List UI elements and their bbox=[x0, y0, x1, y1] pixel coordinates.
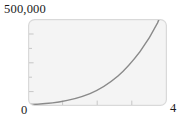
y-axis-max-label: 500,000 bbox=[4, 3, 46, 16]
x-axis-origin-label: 0 bbox=[21, 104, 27, 117]
x-axis-max-label: 4 bbox=[170, 102, 176, 115]
plot-svg bbox=[28, 19, 167, 106]
plot-area bbox=[28, 19, 167, 106]
chart-screenshot: 500,000 bbox=[0, 0, 184, 124]
plot-frame-rect bbox=[29, 20, 167, 106]
